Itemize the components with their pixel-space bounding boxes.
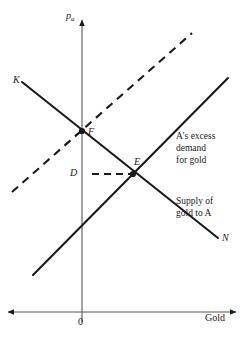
curve-excess-demand-shifted <box>12 33 192 192</box>
annotation-supply-line1: Supply of <box>176 196 213 207</box>
economics-diagram <box>0 0 249 353</box>
curve-excess-demand <box>33 78 228 275</box>
annotation-supply-line2: gold to A <box>176 208 211 219</box>
annotation-excess-demand-line1: A's excess <box>176 131 215 142</box>
point-marker-E <box>130 171 136 177</box>
x-axis-label: Gold <box>205 312 225 324</box>
curve-endpoint-label-K: K <box>13 74 20 86</box>
curve-endpoint-label-N: N <box>222 232 229 244</box>
point-label-E: E <box>134 156 140 168</box>
annotation-excess-demand-line2: demand <box>176 143 206 154</box>
origin-label: 0 <box>78 316 83 328</box>
point-marker-F <box>79 128 85 134</box>
point-label-F: F <box>88 126 94 138</box>
point-label-D: D <box>70 167 77 179</box>
y-axis-label: pa <box>66 10 75 23</box>
y-axis-label-subscript: a <box>71 15 75 23</box>
annotation-excess-demand-line3: for gold <box>176 155 206 166</box>
